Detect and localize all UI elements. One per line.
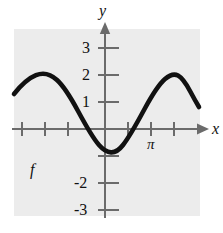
x-axis-label: x [212, 121, 219, 137]
y-axis [100, 22, 110, 218]
y-tick-label-neg3: -3 [74, 202, 87, 218]
y-tick-label-3: 3 [82, 40, 90, 56]
curve-label-f: f [30, 162, 34, 178]
chart-canvas [0, 0, 223, 233]
y-tick-label-neg2: -2 [74, 175, 87, 191]
y-tick-label-2: 2 [82, 67, 90, 83]
figure: 3 2 1 -2 -3 y x π f [0, 0, 223, 233]
function-curve [14, 74, 199, 153]
y-axis-label: y [99, 3, 106, 19]
x-tick-label-pi: π [147, 137, 155, 152]
y-tick-label-1: 1 [82, 94, 90, 110]
x-axis [12, 124, 209, 135]
